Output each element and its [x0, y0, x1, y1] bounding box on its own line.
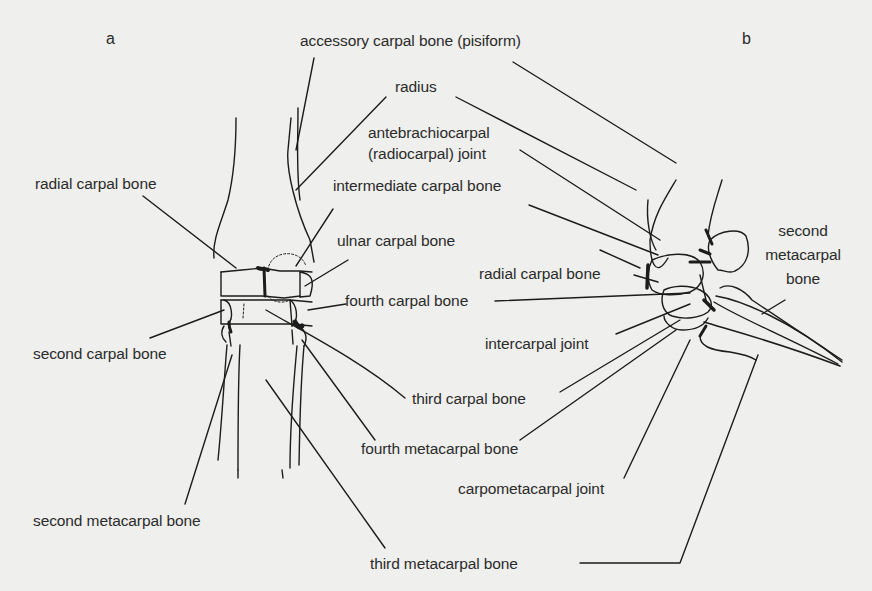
- label-radial-carpal-bone-b: radial carpal bone: [479, 265, 600, 283]
- label-accessory-carpal-bone: accessory carpal bone (pisiform): [300, 32, 521, 50]
- label-antebrachiocarpal-line2: (radiocarpal) joint: [368, 145, 486, 163]
- label-second-metacarpal-b-line3: bone: [770, 270, 836, 288]
- label-ulnar-carpal-bone: ulnar carpal bone: [337, 232, 455, 250]
- label-intercarpal-joint: intercarpal joint: [485, 335, 588, 353]
- label-radial-carpal-bone-a: radial carpal bone: [35, 175, 156, 193]
- label-second-metacarpal-b-line1: second: [770, 222, 836, 240]
- label-third-metacarpal-bone: third metacarpal bone: [370, 555, 518, 573]
- label-second-carpal-bone: second carpal bone: [33, 345, 167, 363]
- label-carpometacarpal-joint: carpometacarpal joint: [458, 480, 604, 498]
- label-antebrachiocarpal-line1: antebrachiocarpal: [368, 124, 490, 142]
- label-fourth-carpal-bone: fourth carpal bone: [345, 292, 468, 310]
- label-fourth-metacarpal-bone: fourth metacarpal bone: [361, 440, 518, 458]
- label-third-carpal-bone: third carpal bone: [412, 390, 526, 408]
- label-second-metacarpal-bone-a: second metacarpal bone: [33, 512, 201, 530]
- carpus-anatomy-figure: a b accessory carpal bone (pisiform) rad…: [0, 0, 872, 591]
- label-radius: radius: [395, 78, 437, 96]
- panel-a-letter: a: [106, 30, 115, 48]
- label-second-metacarpal-b-line2: metacarpal: [758, 246, 848, 264]
- label-intermediate-carpal-bone: intermediate carpal bone: [333, 177, 501, 195]
- panel-b-letter: b: [742, 30, 751, 48]
